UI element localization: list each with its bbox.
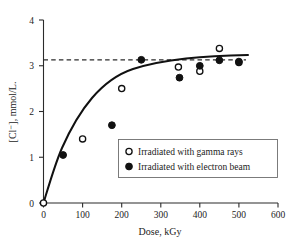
x-tick-label-300: 300 — [154, 210, 169, 220]
data-point-open — [216, 45, 222, 51]
data-point-open — [80, 136, 86, 142]
data-point-open — [119, 86, 125, 92]
x-tick-label-600: 600 — [271, 210, 286, 220]
y-tick-label-0: 0 — [29, 199, 34, 209]
fit-curve-path — [44, 55, 249, 203]
data-point-filled — [109, 122, 116, 129]
x-axis-title: Dose, kGy — [139, 226, 182, 237]
data-point-filled — [216, 57, 223, 64]
data-point-filled — [236, 58, 243, 65]
legend: Irradiated with gamma rays Irradiated wi… — [119, 140, 278, 178]
x-tick-label-500: 500 — [232, 210, 247, 220]
x-tick-label-200: 200 — [115, 210, 130, 220]
x-tick-label-0: 0 — [41, 210, 46, 220]
legend-label-electron-beam: Irradiated with electron beam — [138, 162, 251, 172]
data-point-open — [175, 64, 181, 70]
legend-marker-filled-circle-icon — [126, 163, 133, 170]
data-point-filled — [138, 56, 145, 63]
y-ticks-group: 0 1 2 3 4 — [29, 16, 43, 209]
y-tick-label-1: 1 — [29, 153, 34, 163]
legend-label-gamma-rays: Irradiated with gamma rays — [138, 147, 243, 157]
legend-marker-open-circle-icon — [126, 148, 132, 154]
series-gamma-rays-points — [40, 45, 242, 206]
data-point-open — [40, 200, 46, 206]
y-tick-label-3: 3 — [29, 61, 34, 71]
x-tick-label-100: 100 — [75, 210, 90, 220]
chart-figure: 0 1 2 3 4 0 100 200 300 400 500 600 Dose… — [0, 0, 291, 249]
data-point-filled — [196, 62, 203, 69]
y-axis-title: [Cl⁻], mmol/L. — [7, 82, 18, 143]
x-ticks-group: 0 100 200 300 400 500 600 — [41, 203, 285, 220]
data-point-filled — [60, 152, 67, 159]
data-point-filled — [176, 74, 183, 81]
y-tick-label-4: 4 — [29, 16, 34, 26]
chart-canvas: 0 1 2 3 4 0 100 200 300 400 500 600 Dose… — [0, 0, 291, 249]
x-tick-label-400: 400 — [193, 210, 208, 220]
y-tick-label-2: 2 — [29, 107, 34, 117]
